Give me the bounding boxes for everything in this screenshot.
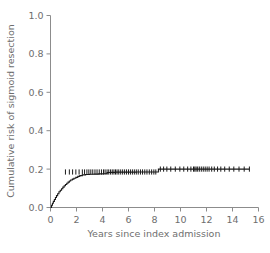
cumulative-risk-curve	[51, 169, 250, 207]
chart-canvas: 0.00.20.40.60.81.0 0246810121416 Cumulat…	[0, 0, 270, 253]
x-axis-title: Years since index admission	[87, 228, 221, 239]
x-tick-label: 10	[174, 214, 186, 225]
x-tick-label: 8	[151, 214, 157, 225]
y-axis-title: Cumulative risk of sigmoid resection	[5, 24, 16, 198]
x-tick-label: 2	[73, 214, 79, 225]
censor-tick-group	[65, 167, 249, 175]
y-tick-label: 0.8	[28, 48, 43, 59]
y-tick-label: 0.6	[28, 87, 43, 98]
x-tick-label: 4	[99, 214, 105, 225]
y-tick-group: 0.00.20.40.60.81.0	[28, 10, 50, 213]
x-tick-label: 14	[226, 214, 238, 225]
x-tick-label: 12	[200, 214, 212, 225]
survival-curve-group	[51, 167, 250, 208]
y-tick-label: 1.0	[28, 10, 43, 21]
y-tick-label: 0.2	[28, 164, 43, 175]
kaplan-meier-figure: 0.00.20.40.60.81.0 0246810121416 Cumulat…	[0, 0, 270, 253]
x-tick-group: 0246810121416	[47, 208, 264, 225]
x-tick-label: 0	[47, 214, 53, 225]
axis-lines	[51, 16, 259, 208]
x-tick-label: 6	[125, 214, 131, 225]
y-tick-label: 0.4	[28, 125, 43, 136]
x-tick-label: 16	[252, 214, 264, 225]
y-tick-label: 0.0	[28, 202, 43, 213]
